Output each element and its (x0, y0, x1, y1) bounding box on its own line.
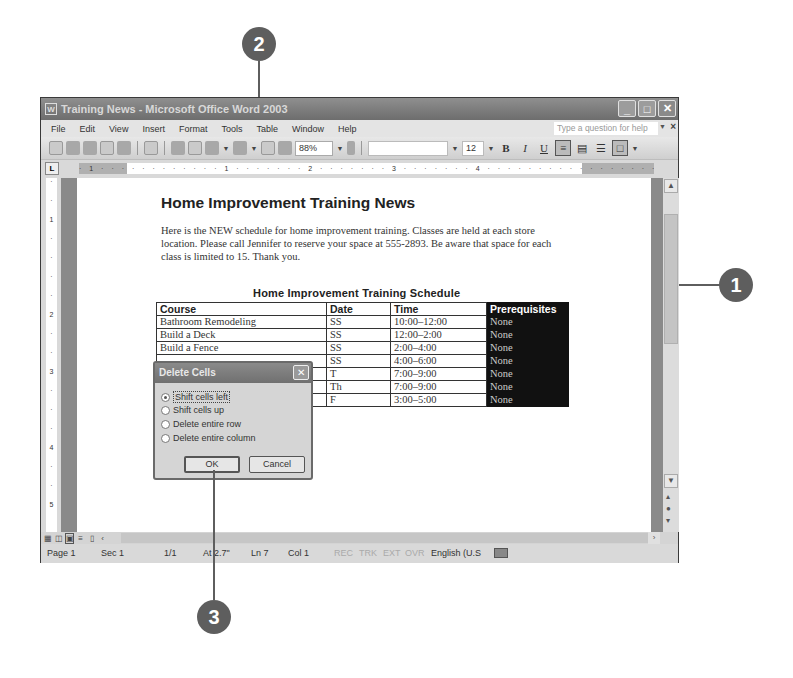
menu-window[interactable]: Window (292, 124, 324, 134)
menu-view[interactable]: View (109, 124, 128, 134)
justify-icon[interactable]: ▤ (574, 140, 590, 156)
table-cell-selected[interactable]: None (487, 355, 569, 368)
table-cell-selected[interactable]: None (487, 368, 569, 381)
font-size-dropdown-icon[interactable]: ▼ (487, 145, 495, 152)
ok-button[interactable]: OK (184, 456, 240, 473)
menu-format[interactable]: Format (179, 124, 208, 134)
option-delete-entire-row[interactable]: Delete entire row (161, 419, 241, 429)
dialog-close-button[interactable]: ✕ (293, 365, 309, 380)
menu-help[interactable]: Help (338, 124, 357, 134)
help-search-input[interactable]: Type a question for help (554, 122, 658, 135)
table-cell[interactable]: Build a Deck (157, 329, 327, 342)
header-date[interactable]: Date (327, 303, 391, 316)
borders-icon[interactable]: □ (612, 140, 628, 156)
table-cell[interactable]: T (327, 368, 391, 381)
horizontal-ruler[interactable]: · 1 · · · · · · · · · · · · 1 · · · · · … (79, 163, 654, 174)
permission-icon[interactable] (100, 141, 114, 155)
option-delete-entire-column[interactable]: Delete entire column (161, 433, 256, 443)
table-cell[interactable]: SS (327, 329, 391, 342)
table-cell-selected[interactable]: None (487, 329, 569, 342)
table-cell[interactable]: 4:00–6:00 (391, 355, 487, 368)
research-icon[interactable] (171, 141, 185, 155)
tab-selector-icon[interactable]: L (45, 162, 59, 175)
table-cell[interactable]: 3:00–5:00 (391, 394, 487, 407)
select-browse-object-icon[interactable]: ● (666, 504, 671, 513)
redo-dropdown-icon[interactable]: ▼ (250, 145, 258, 152)
scroll-up-icon[interactable]: ▲ (664, 179, 678, 193)
print-icon[interactable] (117, 141, 131, 155)
option-shift-cells-left[interactable]: Shift cells left (161, 391, 230, 403)
scroll-down-icon[interactable]: ▼ (664, 474, 678, 488)
table-cell-selected[interactable]: None (487, 316, 569, 329)
web-layout-icon[interactable]: ◫ (54, 534, 63, 543)
help-dropdown-icon[interactable]: ▼ (659, 123, 666, 130)
table-cell[interactable]: SS (327, 355, 391, 368)
undo-icon[interactable] (205, 141, 219, 155)
radio-icon[interactable] (161, 434, 170, 443)
columns-icon[interactable] (278, 141, 292, 155)
table-cell[interactable]: SS (327, 316, 391, 329)
table-cell[interactable]: 12:00–2:00 (391, 329, 487, 342)
table-cell[interactable]: SS (327, 342, 391, 355)
header-prerequisites[interactable]: Prerequisites (487, 303, 569, 316)
open-icon[interactable] (66, 141, 80, 155)
new-document-icon[interactable] (49, 141, 63, 155)
menu-insert[interactable]: Insert (142, 124, 165, 134)
italic-button[interactable]: I (517, 140, 533, 156)
zoom-dropdown-icon[interactable]: ▼ (336, 145, 344, 152)
reading-layout-icon[interactable]: ▯ (87, 534, 96, 543)
normal-view-icon[interactable]: ▦ (43, 534, 52, 543)
next-page-icon[interactable]: ▾ (666, 516, 670, 525)
outline-view-icon[interactable]: ≡ (76, 534, 85, 543)
title-bar[interactable]: W Training News - Microsoft Office Word … (41, 98, 678, 120)
font-dropdown-icon[interactable]: ▼ (451, 145, 459, 152)
menu-table[interactable]: Table (256, 124, 278, 134)
underline-button[interactable]: U (536, 140, 552, 156)
borders-dropdown-icon[interactable]: ▼ (631, 145, 639, 152)
radio-icon[interactable] (161, 420, 170, 429)
menu-file[interactable]: File (51, 124, 66, 134)
font-size-select[interactable]: 12 (462, 141, 484, 156)
save-icon[interactable] (83, 141, 97, 155)
status-ext[interactable]: EXT (383, 548, 401, 558)
menu-tools[interactable]: Tools (221, 124, 242, 134)
redo-icon[interactable] (233, 141, 247, 155)
cancel-button[interactable]: Cancel (249, 456, 305, 473)
status-ovr[interactable]: OVR (405, 548, 425, 558)
zoom-select[interactable]: 88% (295, 141, 333, 156)
table-cell[interactable]: Build a Fence (157, 342, 327, 355)
bullets-icon[interactable]: ☰ (593, 140, 609, 156)
undo-dropdown-icon[interactable]: ▼ (222, 145, 230, 152)
table-cell[interactable]: 10:00–12:00 (391, 316, 487, 329)
maximize-button[interactable]: □ (638, 100, 656, 117)
scroll-left-icon[interactable]: ‹ (98, 534, 107, 543)
spelling-status-icon[interactable] (494, 548, 508, 558)
scroll-thumb[interactable] (664, 214, 678, 344)
table-cell[interactable]: 2:00–4:00 (391, 342, 487, 355)
horizontal-scrollbar[interactable] (121, 533, 651, 543)
radio-icon[interactable] (161, 406, 170, 415)
vertical-scrollbar[interactable]: ▲ ▼ ▴ ● ▾ (663, 178, 679, 532)
insert-table-icon[interactable] (261, 141, 275, 155)
previous-page-icon[interactable]: ▴ (666, 492, 670, 501)
table-cell[interactable]: Th (327, 381, 391, 394)
dialog-title[interactable]: Delete Cells (155, 363, 311, 383)
table-cell[interactable]: F (327, 394, 391, 407)
table-cell[interactable]: 7:00–9:00 (391, 381, 487, 394)
header-time[interactable]: Time (391, 303, 487, 316)
table-cell-selected[interactable]: None (487, 381, 569, 394)
document-close-button[interactable]: × (670, 121, 676, 132)
print-layout-icon[interactable]: ▣ (65, 533, 74, 544)
print-preview-icon[interactable] (144, 141, 158, 155)
status-language[interactable]: English (U.S (431, 548, 481, 558)
status-trk[interactable]: TRK (359, 548, 377, 558)
format-painter-icon[interactable] (188, 141, 202, 155)
minimize-button[interactable]: _ (618, 100, 636, 117)
header-course[interactable]: Course (157, 303, 327, 316)
table-cell-selected[interactable]: None (487, 342, 569, 355)
status-rec[interactable]: REC (334, 548, 353, 558)
toolbar-options-icon[interactable] (347, 141, 355, 155)
vertical-ruler[interactable]: · · 1 · · · · 2 · · 3 · · · 4 · · 5 (41, 178, 61, 532)
align-left-icon[interactable]: ≡ (555, 140, 571, 156)
table-cell[interactable]: 7:00–9:00 (391, 368, 487, 381)
